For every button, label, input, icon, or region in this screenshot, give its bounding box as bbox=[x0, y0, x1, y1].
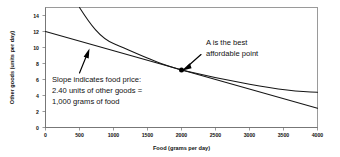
budget-line-arrow bbox=[80, 49, 90, 74]
y-tick-label-8: 8 bbox=[36, 61, 39, 67]
x-axis-title: Food (grams per day) bbox=[153, 145, 210, 151]
slope-callout: Slope indicates food price: 2.40 units o… bbox=[52, 75, 143, 106]
x-tick-label-0: 0 bbox=[44, 132, 47, 138]
y-tick-label-12: 12 bbox=[33, 29, 39, 35]
y-tick-labels: 0 2 4 6 8 10 12 14 bbox=[33, 13, 39, 131]
point-a-callout-line-2: affordable point bbox=[206, 49, 259, 58]
x-tick-label-2500: 2500 bbox=[210, 132, 222, 138]
y-tick-label-10: 10 bbox=[33, 45, 39, 51]
point-a-arrow bbox=[182, 55, 202, 71]
indifference-curve-chart: 0 500 1000 1500 2000 2500 3000 3500 4000… bbox=[0, 0, 340, 157]
x-tick-label-3500: 3500 bbox=[278, 132, 290, 138]
y-tick-label-6: 6 bbox=[36, 77, 39, 83]
budget-line-arrow-head bbox=[84, 49, 90, 59]
point-a-callout-line-1: A is the best bbox=[206, 38, 248, 47]
chart-figure: 0 500 1000 1500 2000 2500 3000 3500 4000… bbox=[0, 0, 340, 157]
y-tick-label-2: 2 bbox=[36, 109, 39, 115]
x-tick-label-1500: 1500 bbox=[142, 132, 154, 138]
x-tick-label-1000: 1000 bbox=[108, 132, 120, 138]
y-tick-label-0: 0 bbox=[36, 125, 39, 131]
x-tick-label-2000: 2000 bbox=[176, 132, 188, 138]
x-tick-label-3000: 3000 bbox=[244, 132, 256, 138]
x-tick-label-4000: 4000 bbox=[312, 132, 324, 138]
point-a-callout: A is the best affordable point bbox=[206, 38, 259, 58]
x-tick-labels: 0 500 1000 1500 2000 2500 3000 3500 4000 bbox=[44, 132, 323, 138]
x-tick-label-500: 500 bbox=[75, 132, 84, 138]
y-axis-title: Other goods (units per day) bbox=[9, 31, 15, 104]
y-tick-label-4: 4 bbox=[36, 93, 39, 99]
point-a-arrow-head bbox=[182, 63, 192, 71]
y-tick-label-14: 14 bbox=[33, 13, 39, 19]
slope-callout-line-2: 2.40 units of other goods = bbox=[52, 86, 143, 95]
slope-callout-line-3: 1,000 grams of food bbox=[52, 97, 120, 106]
slope-callout-line-1: Slope indicates food price: bbox=[52, 75, 141, 84]
